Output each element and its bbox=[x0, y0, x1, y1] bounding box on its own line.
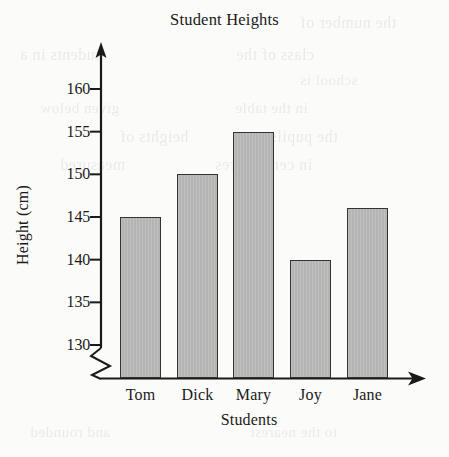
bar bbox=[177, 174, 218, 378]
bar bbox=[120, 217, 161, 378]
bar bbox=[347, 208, 388, 378]
y-axis-tick-label: 160 bbox=[46, 80, 90, 98]
y-axis-tick-label: 145 bbox=[46, 208, 90, 226]
y-axis-tick-label: 155 bbox=[46, 123, 90, 141]
y-axis-tick-label: 130 bbox=[46, 336, 90, 354]
bar bbox=[233, 132, 274, 378]
y-axis-title: Height (cm) bbox=[14, 160, 32, 290]
y-axis-break-zigzag bbox=[91, 348, 110, 379]
y-axis-tick-label: 150 bbox=[46, 165, 90, 183]
y-axis-tick-label: 135 bbox=[46, 293, 90, 311]
x-axis-tick-label: Jane bbox=[328, 386, 408, 404]
plot-area: 130135140145150155160 Height (cm) TomDic… bbox=[0, 0, 449, 457]
y-axis-tick-marks bbox=[90, 89, 101, 345]
chart-page: the number ofstudents in aclass of thesc… bbox=[0, 0, 449, 457]
bar bbox=[290, 260, 331, 378]
y-axis-tick-labels: 130135140145150155160 bbox=[44, 0, 90, 457]
x-axis-title: Students bbox=[104, 411, 394, 429]
y-axis-tick-label: 140 bbox=[46, 251, 90, 269]
